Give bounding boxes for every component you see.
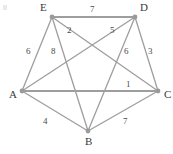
graph-edge-d-a <box>22 17 135 91</box>
graph-edge-a-b <box>22 91 88 131</box>
weighted-graph-figure: ABCDE7256863147 <box>0 0 173 154</box>
node-label-b: B <box>85 136 92 147</box>
graph-canvas <box>0 0 173 154</box>
edge-weight-e-d: 7 <box>90 5 95 14</box>
graph-node-e <box>50 15 55 20</box>
edge-weight-e-c: 2 <box>67 26 72 35</box>
node-label-d: D <box>140 2 148 13</box>
edge-weight-d-b: 6 <box>124 47 129 56</box>
edge-weight-a-e: 6 <box>26 47 31 56</box>
node-label-c: C <box>164 89 171 100</box>
edge-weight-d-c: 3 <box>148 47 153 56</box>
graph-node-c <box>156 89 161 94</box>
edge-weight-e-b: 8 <box>51 47 56 56</box>
edge-weight-b-c: 7 <box>123 117 128 126</box>
graph-node-b <box>86 129 91 134</box>
edge-weight-d-a: 5 <box>110 26 115 35</box>
edge-weight-a-c: 1 <box>126 80 131 89</box>
node-label-a: A <box>9 89 17 100</box>
graph-node-d <box>133 15 138 20</box>
graph-edge-d-c <box>135 17 158 91</box>
graph-node-a <box>20 89 25 94</box>
node-label-e: E <box>40 2 47 13</box>
edge-layer <box>22 17 158 131</box>
edge-weight-a-b: 4 <box>43 117 48 126</box>
